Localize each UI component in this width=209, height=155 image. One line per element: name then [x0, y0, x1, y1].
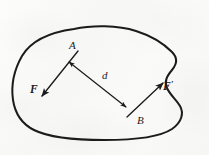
figure-container: A B d F F′ — [0, 0, 209, 155]
force-vector-f-line — [42, 51, 78, 96]
label-point-a: A — [69, 40, 76, 51]
label-force-f-prime: F′ — [163, 80, 174, 92]
label-force-f-text: F — [30, 83, 38, 95]
label-point-b: B — [137, 115, 144, 126]
distance-line-d — [69, 62, 126, 107]
label-force-f-prime-text: F — [163, 80, 171, 92]
prime-mark: ′ — [171, 79, 174, 89]
label-force-f: F — [30, 84, 38, 96]
label-distance-d: d — [102, 70, 108, 81]
force-vector-fprime-line — [127, 83, 163, 117]
